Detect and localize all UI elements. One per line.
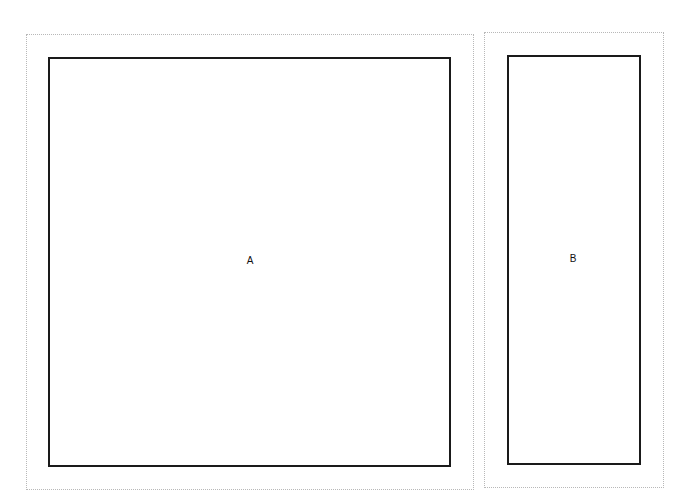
panel-b-label: B (570, 254, 577, 264)
panel-a-label: A (247, 256, 254, 266)
